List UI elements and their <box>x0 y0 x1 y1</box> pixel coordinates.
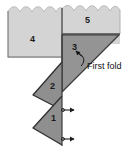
figure-canvas: 4 5 3 2 1 First fold <box>0 0 136 154</box>
panel-4-shape <box>8 4 62 58</box>
first-fold-annotation: First fold <box>87 62 122 71</box>
fold-marker-lower <box>62 136 75 141</box>
paper-fold-diagram <box>0 0 136 154</box>
panel-1-shape <box>33 96 62 145</box>
fold-marker-upper <box>62 107 75 112</box>
